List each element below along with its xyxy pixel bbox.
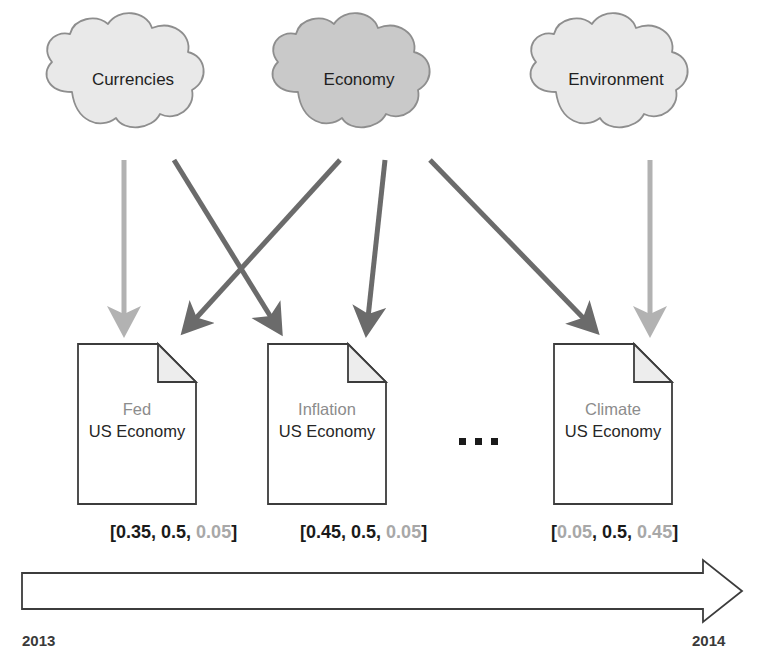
topic-vector-climate: [0.05, 0.5, 0.45] [551,522,678,543]
topic-vector-inflation: [0.45, 0.5, 0.05] [300,522,427,543]
document-body-climate: US Economy [550,422,676,441]
cloud-label-currencies: Currencies [72,70,194,90]
document-body-inflation: US Economy [264,422,390,441]
edge-economy-inflation [367,160,385,327]
ellipsis-indicator [459,438,498,445]
vector-comma: , [627,522,637,542]
diagram-graphics [0,0,761,672]
edge-economy-climate [430,160,592,327]
vector-bracket-close: ] [421,522,427,542]
ellipsis-dot [475,438,482,445]
vector-bracket-close: ] [672,522,678,542]
vector-value-0: 0.45 [306,522,341,542]
vector-value-1: 0.5 [351,522,376,542]
ellipsis-dot [491,438,498,445]
vector-value-1: 0.5 [602,522,627,542]
topic-vector-fed: [0.35, 0.5, 0.05] [110,522,237,543]
timeline-end-label: 2014 [692,632,725,649]
ellipsis-dot [459,438,466,445]
vector-comma: , [186,522,196,542]
cloud-label-environment: Environment [551,70,681,90]
cloud-label-economy: Economy [298,70,420,90]
vector-value-0: 0.05 [557,522,592,542]
document-body-fed: US Economy [74,422,200,441]
vector-comma: , [341,522,351,542]
document-topic-fed: Fed [78,400,196,419]
vector-comma: , [592,522,602,542]
vector-bracket-close: ] [231,522,237,542]
vector-value-0: 0.35 [116,522,151,542]
timeline-start-label: 2013 [22,632,55,649]
vector-comma: , [151,522,161,542]
vector-value-2: 0.45 [637,522,672,542]
document-topic-inflation: Inflation [268,400,386,419]
vector-value-2: 0.05 [196,522,231,542]
timeline-arrow [22,560,742,622]
diagram-canvas: Currencies Economy Environment Fed US Ec… [0,0,761,672]
vector-comma: , [376,522,386,542]
vector-value-1: 0.5 [161,522,186,542]
vector-value-2: 0.05 [386,522,421,542]
document-topic-climate: Climate [554,400,672,419]
